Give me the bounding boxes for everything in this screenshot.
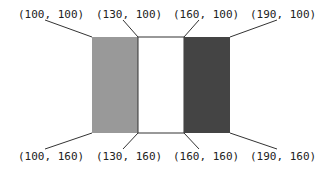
gray-rect — [92, 37, 138, 133]
label-top-2: (130, 100) — [96, 8, 162, 21]
label-bottom-3: (160, 160) — [173, 150, 239, 163]
label-bottom-1: (100, 160) — [18, 150, 84, 163]
label-top-4: (190, 100) — [250, 8, 316, 21]
label-bottom-2: (130, 160) — [96, 150, 162, 163]
label-bottom-4: (190, 160) — [250, 150, 316, 163]
coordinate-diagram: (100, 100) (130, 100) (160, 100) (190, 1… — [0, 0, 318, 170]
white-rect — [138, 37, 184, 133]
label-top-1: (100, 100) — [18, 8, 84, 21]
label-top-3: (160, 100) — [173, 8, 239, 21]
dark-rect — [184, 37, 230, 133]
